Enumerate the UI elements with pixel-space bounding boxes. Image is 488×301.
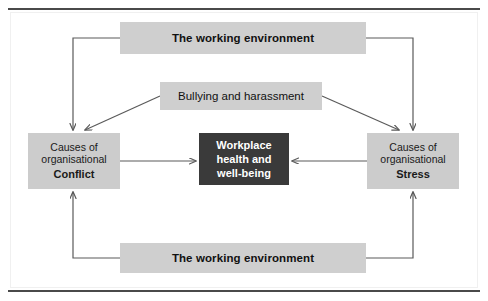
- node-top-working-environment: The working environment: [120, 22, 366, 54]
- node-conflict-line-2: organisational: [41, 153, 106, 166]
- node-top-working-environment-label: The working environment: [172, 31, 314, 45]
- connector-top-env-to-stress: [366, 38, 413, 130]
- connector-bottom-env-to-stress: [366, 192, 413, 258]
- node-core-line-3: well-being: [217, 166, 271, 180]
- node-conflict-line-1: Causes of: [50, 141, 97, 154]
- diagram-figure: The working environment Bullying and har…: [0, 0, 488, 301]
- node-core-line-1: Workplace: [216, 138, 271, 152]
- node-causes-of-organisational-stress: Causes of organisational Stress: [367, 133, 459, 189]
- node-bullying-and-harassment: Bullying and harassment: [160, 82, 322, 110]
- node-bottom-working-environment-label: The working environment: [172, 251, 314, 265]
- connector-bullying-to-conflict: [85, 96, 160, 130]
- node-stress-line-3: Stress: [396, 168, 430, 181]
- node-bullying-and-harassment-label: Bullying and harassment: [178, 89, 304, 103]
- node-stress-line-2: organisational: [380, 153, 445, 166]
- node-stress-line-1: Causes of: [389, 141, 436, 154]
- connector-bullying-to-stress: [322, 96, 399, 130]
- node-causes-of-organisational-conflict: Causes of organisational Conflict: [28, 133, 120, 189]
- node-conflict-line-3: Conflict: [54, 168, 95, 181]
- node-workplace-health-and-well-being: Workplace health and well-being: [199, 133, 289, 185]
- node-core-line-2: health and: [216, 152, 271, 166]
- node-bottom-working-environment: The working environment: [120, 243, 366, 273]
- connector-bottom-env-to-conflict: [73, 192, 120, 258]
- connector-top-env-to-conflict: [73, 38, 120, 130]
